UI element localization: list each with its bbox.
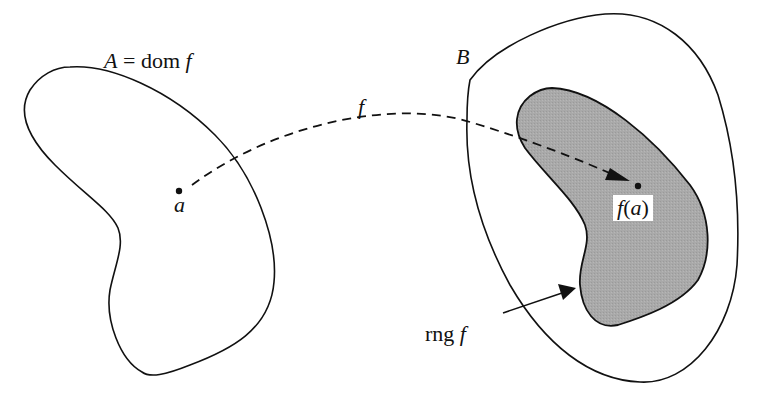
equals-sign: = xyxy=(123,48,135,73)
range-pointer-arrowhead-icon xyxy=(558,284,576,300)
dom-word: dom xyxy=(141,48,180,73)
point-f-of-a xyxy=(635,183,641,189)
range-pointer-line xyxy=(503,292,565,313)
mapping-f-label: f xyxy=(358,96,364,118)
function-mapping-diagram: A = dom f a f B f(a) rng f xyxy=(0,0,760,403)
set-b-label: B xyxy=(456,46,469,68)
set-a-label: A = dom f xyxy=(104,50,192,72)
rng-word: rng xyxy=(425,321,454,346)
f-of-a-label: f(a) xyxy=(613,195,653,221)
set-a-name: A xyxy=(104,48,117,73)
rng-func: f xyxy=(460,321,466,346)
point-a-label: a xyxy=(174,194,185,216)
dom-func: f xyxy=(186,48,192,73)
range-label: rng f xyxy=(425,323,466,345)
f-of-a-close-paren: ) xyxy=(641,195,648,220)
f-of-a-arg: a xyxy=(630,195,641,220)
set-a-boundary xyxy=(24,67,274,375)
